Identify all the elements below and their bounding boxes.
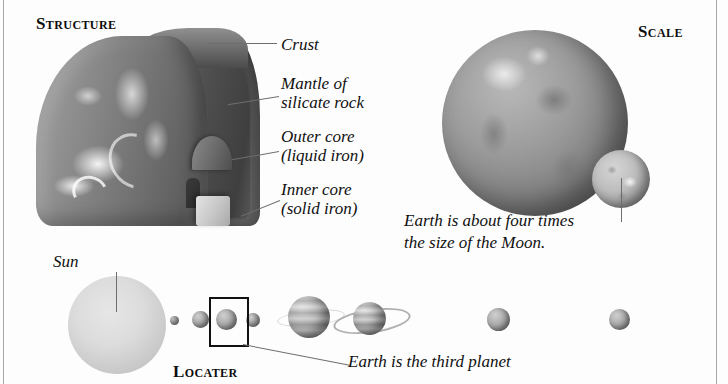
planet-saturn (353, 302, 386, 335)
caption-locater: Earth is the third planet (348, 352, 511, 371)
cloud-band-icon (98, 123, 172, 199)
sun-sphere (68, 276, 166, 374)
label-outer-core: Outer core (liquid iron) (281, 127, 364, 165)
page-rule-left (3, 0, 4, 384)
heading-locater: Locater (173, 362, 238, 382)
label-inner-core: Inner core (solid iron) (281, 180, 357, 218)
planet-neptune (609, 309, 630, 330)
label-sun: Sun (53, 252, 79, 271)
label-crust: Crust (281, 35, 319, 54)
planet-jupiter (288, 296, 330, 338)
leader-line-crust (207, 43, 277, 44)
caption-scale: Earth is about four times the size of th… (404, 210, 574, 254)
leader-line-locater (243, 344, 351, 366)
planet-venus (192, 311, 209, 328)
page-rule-right (716, 0, 717, 384)
locater-highlight-box (209, 297, 249, 347)
cloud-swirl-icon (68, 171, 113, 213)
label-mantle: Mantle of silicate rock (281, 74, 364, 112)
leader-line-moon (621, 178, 622, 222)
earth-cutaway-illustration (36, 28, 268, 233)
earth-surface-face (36, 36, 208, 226)
planet-uranus (487, 308, 510, 331)
leader-line-sun (116, 272, 117, 312)
encyclopedia-page: Structure Crust Mantle of silicate rock … (0, 0, 728, 384)
heading-scale: Scale (638, 22, 683, 42)
planet-mercury (170, 316, 179, 325)
inner-core-block (196, 196, 230, 226)
